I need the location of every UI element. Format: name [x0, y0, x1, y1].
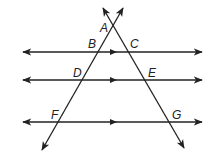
point-label-f: F — [51, 108, 59, 122]
parallel-line-bc — [23, 49, 202, 55]
point-label-e: E — [148, 66, 157, 80]
point-label-b: B — [88, 37, 96, 51]
point-label-d: D — [73, 66, 82, 80]
parallel-mark-icon — [110, 77, 117, 83]
geometry-figure: A B C D E F G — [0, 0, 215, 165]
parallel-line-de — [23, 77, 202, 83]
point-label-a: A — [99, 21, 108, 35]
transversal-ag — [103, 8, 184, 148]
point-label-g: G — [172, 108, 181, 122]
parallel-mark-icon — [110, 49, 117, 55]
parallel-mark-icon — [110, 119, 117, 125]
point-label-c: C — [130, 37, 139, 51]
